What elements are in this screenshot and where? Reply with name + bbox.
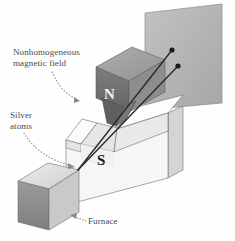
label-silver-atoms: Silver atoms: [10, 110, 32, 131]
furnace: [18, 163, 79, 230]
label-silver-line1: Silver: [10, 110, 32, 121]
furnace-front-face: [18, 181, 49, 230]
south-pole-side-face: [168, 106, 183, 178]
field-pointer-arrowhead-icon: [74, 97, 80, 103]
lower-beam-spot: [175, 63, 180, 68]
label-furnace: Furnace: [88, 216, 118, 227]
label-field-line1: Nonhomogeneous: [13, 47, 80, 58]
silver-pointer-dotted-arrow-icon: [24, 133, 72, 166]
stern-gerlach-figure: Nonhomogeneous magnetic field Silver ato…: [0, 0, 235, 241]
field-pointer-dotted-arrow-icon: [52, 72, 78, 100]
label-field-line2: magnetic field: [13, 58, 80, 69]
label-nonhomogeneous-magnetic-field: Nonhomogeneous magnetic field: [13, 47, 80, 68]
label-silver-line2: atoms: [10, 121, 32, 132]
apparatus-drawing: [0, 0, 235, 241]
upper-beam-spot: [169, 47, 174, 52]
